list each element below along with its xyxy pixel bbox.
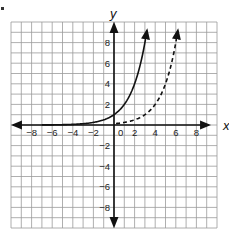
y-tick-label: 4 (105, 78, 110, 89)
y-tick-label: −6 (99, 181, 110, 192)
y-tick-label: 8 (105, 37, 110, 48)
x-tick-label: 2 (132, 127, 137, 138)
solid-curve (42, 30, 147, 125)
dashed-curve (116, 30, 178, 123)
chart-plot: xy−8−6−4−2024688642−2−4−6−8 (0, 0, 229, 234)
x-axis-label: x (222, 118, 229, 133)
x-tick-label: −8 (26, 127, 37, 138)
y-tick-label: 6 (105, 58, 110, 69)
x-tick-label: 4 (153, 127, 158, 138)
x-tick-label: 0 (118, 127, 123, 138)
y-tick-label: 2 (105, 99, 110, 110)
x-tick-label: 8 (194, 127, 199, 138)
y-tick-label: −4 (99, 161, 110, 172)
x-tick-label: −6 (47, 127, 58, 138)
x-tick-label: −4 (67, 127, 78, 138)
y-tick-label: −2 (99, 140, 110, 151)
x-tick-label: −2 (88, 127, 99, 138)
y-axis-label: y (109, 6, 118, 21)
y-tick-label: −8 (99, 202, 110, 213)
x-tick-label: 6 (173, 127, 178, 138)
